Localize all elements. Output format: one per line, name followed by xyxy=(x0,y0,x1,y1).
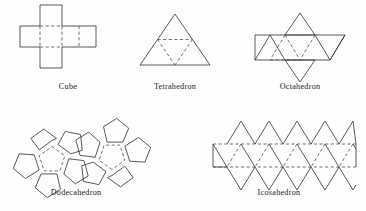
icosa-mid-d-2 xyxy=(255,144,269,167)
icosa-bottom-point-1 xyxy=(213,167,255,190)
icosa-mid-d-1 xyxy=(227,144,241,167)
icosa-mid-d-5 xyxy=(339,144,353,167)
octahedron-net-figure xyxy=(248,10,352,74)
octahedron-zig-3 xyxy=(315,35,330,60)
tetrahedron-net-figure xyxy=(136,12,214,68)
icosa-mid-v-3 xyxy=(269,144,283,167)
icosa-top-peak-5 xyxy=(339,121,356,144)
icosahedron-net-figure xyxy=(210,118,358,188)
caption-dodecahedron: Dodecahedron xyxy=(28,188,124,197)
icosa-top-peak-3 xyxy=(283,121,311,144)
icosa-top-peak-2 xyxy=(255,121,283,144)
cube-outline xyxy=(20,5,96,68)
dodeca-left-centre-pentagon xyxy=(39,147,65,171)
caption-octahedron: Octahedron xyxy=(262,82,338,91)
icosa-mid-v-6 xyxy=(353,144,356,149)
icosa-bottom-point-5 xyxy=(339,167,356,190)
icosa-mid-v-1 xyxy=(213,144,227,167)
dodeca-left-petal-left xyxy=(13,154,39,179)
dodecahedron-net-svg xyxy=(8,126,156,188)
icosa-mid-v-2 xyxy=(241,144,255,167)
caption-icosahedron: Icosahedron xyxy=(236,188,322,197)
dodecahedron-net-figure xyxy=(8,126,156,188)
tetrahedron-fold-right xyxy=(175,40,193,66)
dodeca-right-centre-pentagon xyxy=(99,145,125,169)
dodeca-left-petal-lower-right xyxy=(64,159,88,184)
octahedron-fold-b xyxy=(285,35,300,60)
octahedron-zig-1 xyxy=(255,35,270,60)
icosa-mid-d-4 xyxy=(311,144,325,167)
icosa-mid-v-5 xyxy=(325,144,339,167)
cube-net-svg xyxy=(18,3,100,71)
dodeca-right-petal-left xyxy=(125,138,151,163)
icosa-mid-v-4 xyxy=(297,144,311,167)
icosahedron-net-svg xyxy=(210,118,358,188)
octahedron-band-outline xyxy=(255,35,345,60)
cube-net-figure xyxy=(18,3,100,71)
octahedron-bottom-triangle xyxy=(285,60,315,82)
icosa-bottom-point-2 xyxy=(255,167,283,190)
icosa-bottom-point-3 xyxy=(283,167,311,190)
dodeca-right-petal-lower-right xyxy=(76,132,100,157)
octahedron-band-right-edge xyxy=(330,35,345,60)
tetrahedron-net-svg xyxy=(136,12,214,68)
icosa-bottom-point-4 xyxy=(311,167,339,190)
tetrahedron-fold-left xyxy=(158,40,176,66)
icosa-top-peak-1 xyxy=(227,121,255,144)
icosa-mid-d-3 xyxy=(283,144,297,167)
octahedron-fold-c xyxy=(300,35,315,60)
caption-cube: Cube xyxy=(38,82,98,91)
caption-tetrahedron: Tetrahedron xyxy=(137,82,213,91)
octahedron-net-svg xyxy=(248,10,352,74)
octahedron-top-triangle xyxy=(285,13,315,35)
dodeca-right-petal-lower-left xyxy=(104,118,129,142)
icosa-top-peak-4 xyxy=(311,121,339,144)
